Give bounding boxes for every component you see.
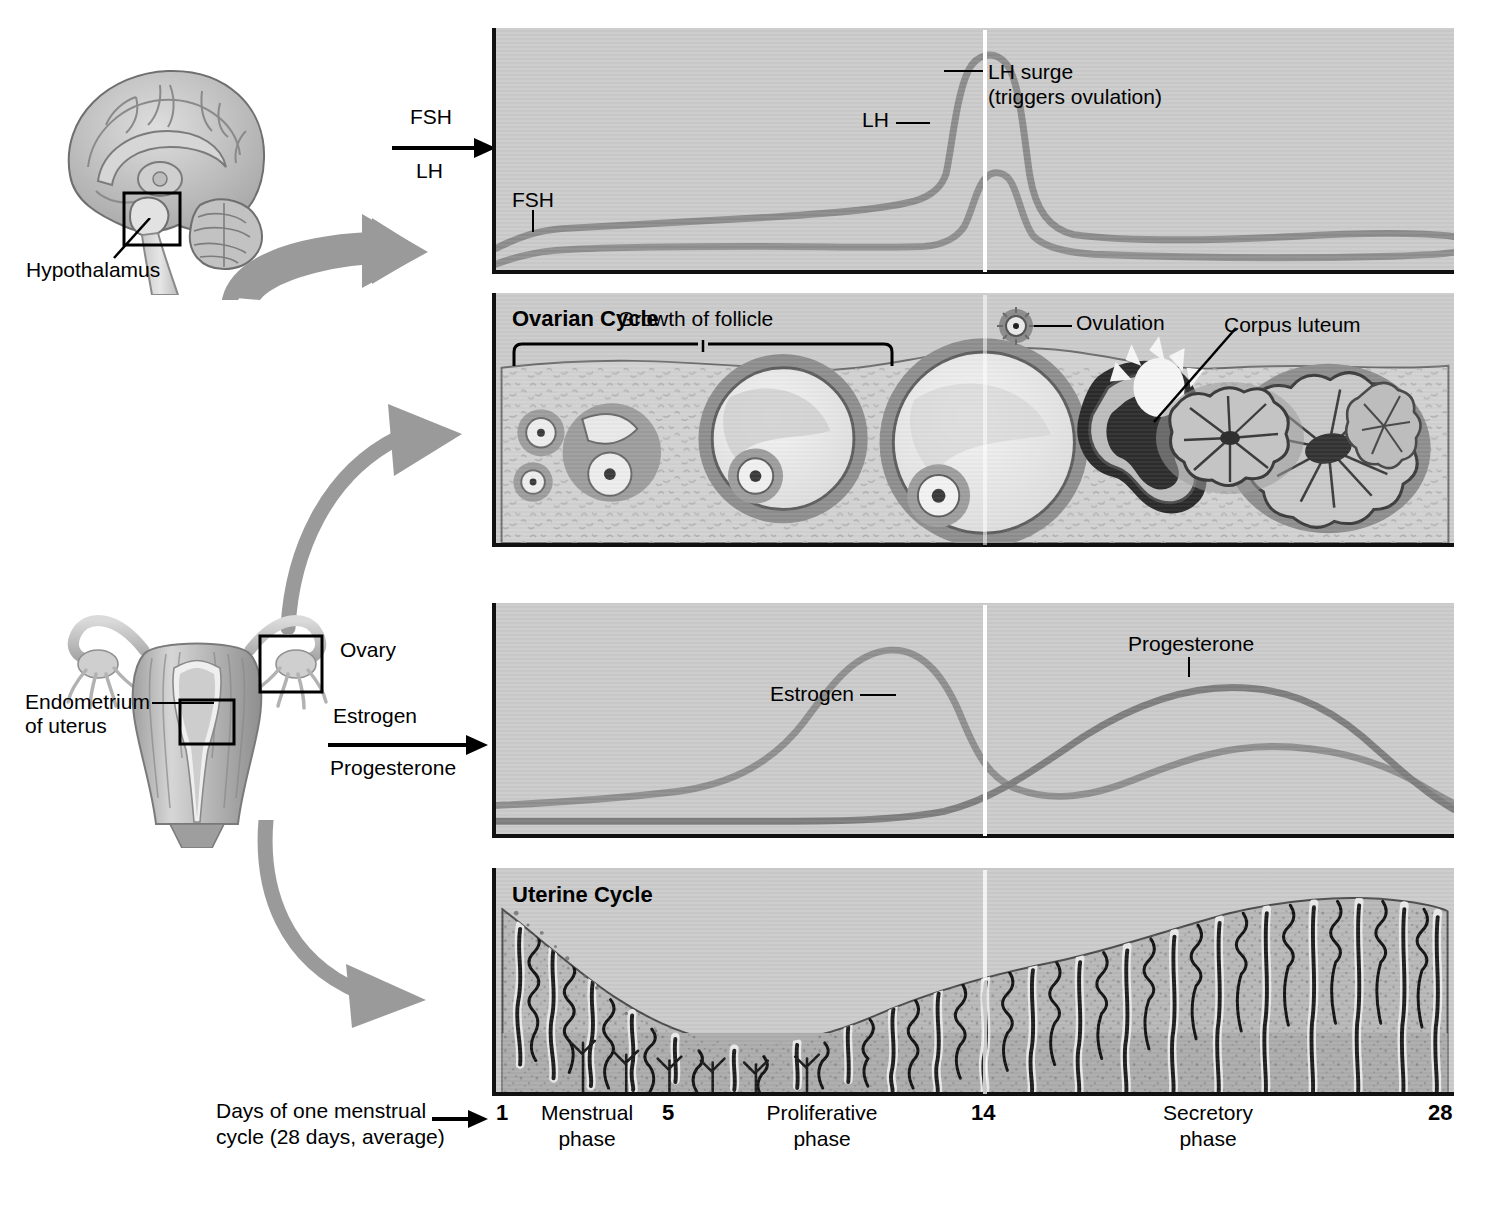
day-label-1: 1: [496, 1100, 508, 1126]
flow-arrow-uterus: [250, 820, 500, 1032]
progesterone-curve-leader: [1188, 657, 1190, 677]
progesterone-arrow-label: Progesterone: [330, 755, 456, 780]
fsh-arrow-label: FSH: [410, 104, 452, 129]
endometrium-label-line1: Endometrium: [25, 689, 150, 714]
estrogen-progesterone-arrow-icon: [328, 733, 488, 757]
day-label-14: 14: [971, 1100, 995, 1126]
days-caption-line2: cycle (28 days, average): [216, 1124, 445, 1149]
ovulation-marker-panel3: [983, 605, 987, 836]
phase-secretory-line1: Secretory: [1128, 1100, 1288, 1125]
fsh-lh-arrow-icon: [392, 136, 496, 160]
days-caption-line1: Days of one menstrual: [216, 1098, 426, 1123]
endometrium-leader: [152, 702, 214, 704]
ovulation-marker-panel1: [983, 30, 987, 272]
day-label-5: 5: [662, 1100, 674, 1126]
fsh-curve-label: FSH: [512, 187, 554, 212]
corpus-luteum-leader: [1150, 326, 1240, 426]
estrogen-curve-leader: [860, 694, 896, 696]
corpus-luteum-label: Corpus luteum: [1224, 312, 1361, 337]
hypothalamus-label: Hypothalamus: [26, 257, 160, 282]
lh-surge-annotation-line2: (triggers ovulation): [988, 84, 1162, 109]
hypothalamus-leader-line: [110, 218, 152, 260]
fsh-curve-leader: [532, 210, 534, 232]
phase-proliferative-line1: Proliferative: [742, 1100, 902, 1125]
lh-surge-annotation-line1: LH surge: [988, 59, 1073, 84]
lh-surge-leader: [944, 70, 984, 72]
endometrium-label-line2: of uterus: [25, 713, 107, 738]
phase-menstrual-line1: Menstrual: [527, 1100, 647, 1125]
panel-gonadotropin-graph: [492, 28, 1454, 274]
lh-curve-label: LH: [862, 107, 889, 132]
days-caption-arrow-icon: [432, 1108, 488, 1130]
day-label-28: 28: [1428, 1100, 1452, 1126]
flow-arrow-ovary: [248, 372, 500, 634]
phase-proliferative-line2: phase: [742, 1126, 902, 1151]
panel-ovarian-hormone-graph: [492, 603, 1454, 838]
lh-curve-leader: [896, 122, 930, 124]
estrogen-arrow-label: Estrogen: [333, 703, 417, 728]
progesterone-curve-label: Progesterone: [1128, 631, 1254, 656]
ovulation-marker-panel2: [983, 295, 987, 545]
uterine-cycle-title: Uterine Cycle: [512, 882, 653, 908]
ovulation-oocyte-icon: [996, 306, 1036, 346]
growth-of-follicle-bracket: [512, 340, 894, 368]
ovulation-marker-panel4: [983, 870, 987, 1094]
phase-secretory-line2: phase: [1128, 1126, 1288, 1151]
ovary-label: Ovary: [340, 637, 396, 662]
phase-menstrual-line2: phase: [527, 1126, 647, 1151]
ovarian-cycle-title: Ovarian Cycle: [512, 306, 659, 332]
ovulation-leader: [1034, 325, 1072, 327]
estrogen-curve-label: Estrogen: [770, 681, 854, 706]
flow-arrow-hypothalamus: [212, 180, 492, 300]
